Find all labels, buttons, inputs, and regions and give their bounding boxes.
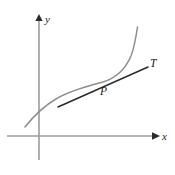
y-axis-arrowhead (35, 14, 42, 21)
tangency-point-label: P (100, 86, 107, 98)
y-axis-label: y (45, 14, 50, 25)
figure-canvas (0, 0, 175, 175)
x-axis-label: x (162, 131, 167, 142)
tangent-line-label: T (150, 58, 156, 70)
x-axis-arrowhead (152, 132, 160, 140)
tangent-line-figure: y x T P (0, 0, 175, 175)
function-curve (25, 27, 138, 127)
